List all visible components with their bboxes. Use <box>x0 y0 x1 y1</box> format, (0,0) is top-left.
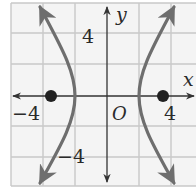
focus-point-right <box>157 90 169 102</box>
hyperbola-graph: y x O 4 −4 −4 4 <box>0 0 196 192</box>
origin-label: O <box>112 103 127 124</box>
focus-point-left <box>45 90 57 102</box>
x-axis-label: x <box>183 68 194 90</box>
y-axis-label: y <box>115 3 127 25</box>
x-tick-label-neg4: −4 <box>12 102 40 124</box>
x-tick-label-4: 4 <box>164 102 176 124</box>
y-tick-label-neg4: −4 <box>57 145 85 167</box>
y-tick-label-4: 4 <box>82 25 94 47</box>
